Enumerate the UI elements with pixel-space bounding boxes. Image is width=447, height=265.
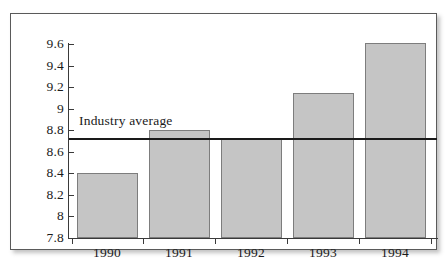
x-axis-label-1994: 1994 [360, 246, 430, 260]
bar-1990[interactable] [77, 173, 138, 238]
x-axis-line [68, 238, 438, 239]
y-tick-8 [68, 216, 74, 217]
y-axis-label: 9.6 [20, 37, 64, 51]
y-tick-7.8 [68, 238, 74, 239]
x-axis-label-1991: 1991 [144, 246, 214, 260]
y-tick-8.2 [68, 195, 74, 196]
x-axis-label-1993: 1993 [288, 246, 358, 260]
x-axis-label-1990: 1990 [72, 246, 142, 260]
y-axis-label: 9.4 [20, 59, 64, 73]
x-tick-1 [143, 238, 144, 244]
y-axis-label: 9 [20, 102, 64, 116]
y-tick-8.4 [68, 173, 74, 174]
y-axis-label: 7.8 [20, 231, 64, 245]
x-tick-4 [359, 238, 360, 244]
bar-1992[interactable] [221, 138, 282, 239]
x-tick-5 [431, 238, 432, 244]
y-axis-label: 8 [20, 209, 64, 223]
y-label-wrap-7.8: 7.8 [16, 231, 64, 245]
y-label-wrap-9.2: 9.2 [16, 80, 64, 94]
y-axis-label: 8.2 [20, 188, 64, 202]
y-label-wrap-8.6: 8.6 [16, 145, 64, 159]
y-axis-label: 8.6 [20, 145, 64, 159]
y-label-wrap-9.4: 9.4 [16, 59, 64, 73]
x-tick-0 [72, 238, 73, 244]
industry-average-label: Industry average [79, 114, 173, 128]
bar-1991[interactable] [149, 130, 210, 238]
y-label-wrap-9: 9 [16, 102, 64, 116]
bar-1994[interactable] [365, 43, 426, 238]
x-tick-3 [287, 238, 288, 244]
y-label-wrap-8: 8 [16, 209, 64, 223]
y-axis-label: 8.8 [20, 123, 64, 137]
y-tick-9.4 [68, 66, 74, 67]
y-tick-8.8 [68, 130, 74, 131]
bar-1993[interactable] [293, 93, 354, 239]
y-label-wrap-8.2: 8.2 [16, 188, 64, 202]
y-label-wrap-9.6: 9.6 [16, 37, 64, 51]
y-tick-9 [68, 109, 74, 110]
y-axis-label: 8.4 [20, 166, 64, 180]
y-tick-9.2 [68, 87, 74, 88]
chart-figure: 9.6 9.4 9.2 9 8.8 8.6 8.4 8.2 [0, 0, 447, 265]
x-axis-label-1992: 1992 [216, 246, 286, 260]
x-tick-2 [215, 238, 216, 244]
y-axis-label: 9.2 [20, 80, 64, 94]
y-label-wrap-8.4: 8.4 [16, 166, 64, 180]
chart-frame: 9.6 9.4 9.2 9 8.8 8.6 8.4 8.2 [10, 13, 437, 250]
y-tick-8.6 [68, 152, 74, 153]
industry-average-line [69, 138, 437, 140]
y-label-wrap-8.8: 8.8 [16, 123, 64, 137]
y-tick-9.6 [68, 44, 74, 45]
y-axis-line [68, 43, 69, 239]
